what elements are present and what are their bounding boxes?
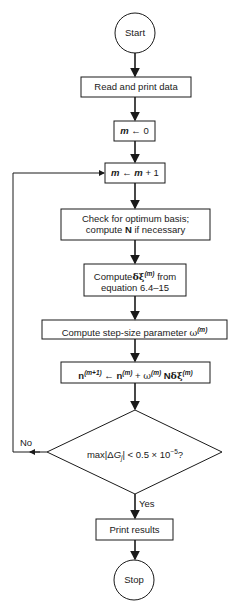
read-data-label: Read and print data [81, 81, 191, 92]
decision-label: max|ΔGj| < 0.5 × 10−5? [55, 446, 215, 463]
start-label: Start [115, 27, 155, 38]
compute-delta-line2: equation 6.4–15 [84, 282, 186, 293]
print-results-label: Print results [96, 524, 173, 535]
check-line1: Check for optimum basis; [61, 213, 210, 224]
increment-label: m ← m + 1 [105, 167, 165, 178]
no-label: No [20, 437, 32, 448]
step-size-label: Compute step-size parameter ω(m) [42, 324, 227, 338]
init-value: 0 [143, 125, 148, 136]
var-m: m [134, 167, 142, 178]
assign-arrow: ← [122, 167, 132, 178]
check-line2: compute N if necessary [61, 224, 210, 235]
init-label: m ← 0 [114, 125, 155, 136]
stop-label: Stop [114, 574, 154, 585]
yes-label: Yes [139, 498, 155, 509]
var-m: m [120, 125, 128, 136]
check-basis-label: Check for optimum basis; compute N if ne… [61, 213, 210, 235]
update-label: n(m+1) ← n(m) + ω(m) Nδξ(m) [61, 367, 210, 381]
compute-delta-line1: Computeδξ(m) from [84, 268, 186, 282]
var-m: m [111, 167, 119, 178]
assign-arrow: ← [131, 125, 141, 136]
plus-one: + 1 [143, 167, 159, 178]
compute-delta-label: Computeδξ(m) from equation 6.4–15 [84, 268, 186, 293]
